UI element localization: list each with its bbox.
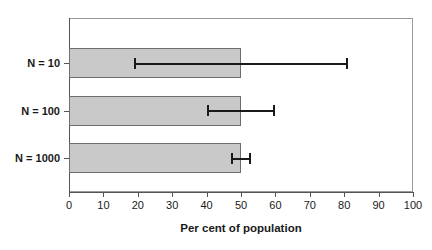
x-tick-mark — [275, 192, 276, 197]
error-bar-n-1000 — [231, 153, 252, 164]
error-bar-cap — [273, 105, 275, 116]
error-bar-cap — [231, 153, 233, 164]
x-tick-mark — [103, 192, 104, 197]
x-tick-mark — [69, 192, 70, 197]
error-bar-line — [134, 63, 347, 65]
x-tick-mark — [413, 192, 414, 197]
x-tick-mark — [344, 192, 345, 197]
error-bar-cap — [134, 58, 136, 69]
bar-chart-figure: 0102030405060708090100 N = 10N = 100N = … — [0, 0, 432, 250]
bar-n-1000 — [69, 143, 241, 173]
error-bar-line — [207, 110, 276, 112]
x-tick-mark — [207, 192, 208, 197]
x-tick-mark — [379, 192, 380, 197]
x-tick-mark — [172, 192, 173, 197]
error-bar-cap — [346, 58, 348, 69]
y-tick-mark — [64, 63, 69, 64]
error-bar-cap — [207, 105, 209, 116]
error-bar-line — [231, 158, 252, 160]
x-axis-title: Per cent of population — [69, 222, 413, 234]
y-tick-mark — [64, 158, 69, 159]
y-tick-label: N = 1000 — [0, 152, 60, 164]
y-tick-label: N = 10 — [0, 57, 60, 69]
x-tick-mark — [138, 192, 139, 197]
error-bar-cap — [249, 153, 251, 164]
x-tick-mark — [241, 192, 242, 197]
error-bar-n-10 — [134, 58, 347, 69]
error-bar-n-100 — [207, 105, 276, 116]
y-tick-mark — [64, 111, 69, 112]
x-tick-mark — [310, 192, 311, 197]
x-tick-label: 100 — [393, 199, 432, 212]
y-tick-label: N = 100 — [0, 105, 60, 117]
